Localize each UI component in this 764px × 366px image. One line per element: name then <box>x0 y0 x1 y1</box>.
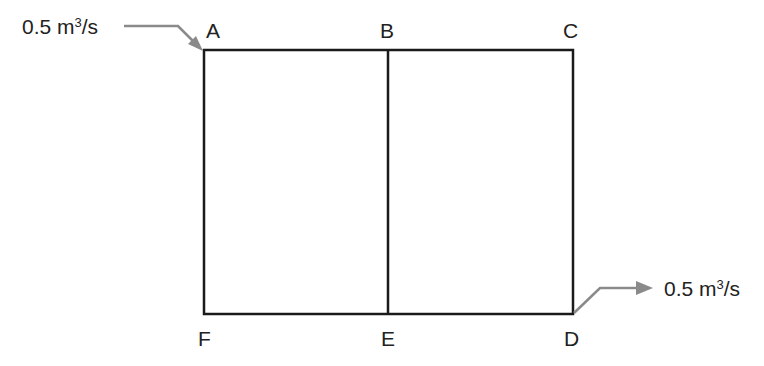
pipe-network-diagram <box>0 0 764 366</box>
node-label-c: C <box>563 20 578 41</box>
pipe-network <box>204 50 573 314</box>
inflow-label: 0.5 m3/s <box>22 16 98 37</box>
inflow-arrow-icon <box>124 26 203 51</box>
outflow-label: 0.5 m3/s <box>664 278 740 299</box>
node-label-f: F <box>198 328 211 349</box>
node-label-d: D <box>564 328 579 349</box>
outflow-arrow-icon <box>574 281 653 313</box>
node-label-b: B <box>380 20 394 41</box>
node-label-a: A <box>206 20 220 41</box>
node-label-e: E <box>381 328 395 349</box>
